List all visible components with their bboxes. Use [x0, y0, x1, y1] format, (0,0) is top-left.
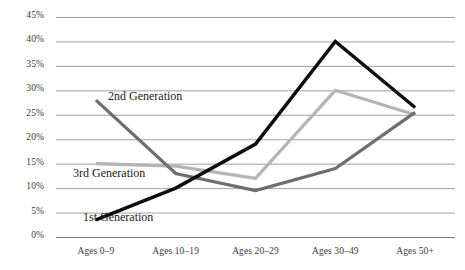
series-label-2: 2nd Generation: [108, 89, 182, 104]
y-axis-tick-label: 20%: [8, 132, 44, 142]
y-axis-tick-label: 0%: [8, 230, 44, 240]
x-axis-tick-label: Ages 0–9: [56, 246, 136, 256]
line-chart: 0%5%10%15%20%25%30%35%40%45% Ages 0–9Age…: [0, 0, 465, 270]
chart-plot-area: [0, 0, 465, 270]
y-axis-tick-label: 40%: [8, 34, 44, 44]
y-axis-tick-label: 10%: [8, 181, 44, 191]
x-axis-tick-label: Ages 20–29: [216, 246, 296, 256]
y-axis-tick-label: 35%: [8, 59, 44, 69]
y-axis-tick-label: 5%: [8, 206, 44, 216]
y-axis-tick-label: 25%: [8, 108, 44, 118]
y-axis-tick-label: 30%: [8, 83, 44, 93]
x-axis-tick-label: Ages 10–19: [136, 246, 216, 256]
y-axis-tick-label: 45%: [8, 10, 44, 20]
series-line-1: [96, 41, 415, 219]
x-axis-tick-label: Ages 50+: [375, 246, 455, 256]
y-axis-tick-label: 15%: [8, 157, 44, 167]
x-axis-tick-label: Ages 30–49: [295, 246, 375, 256]
series-label-3: 3rd Generation: [73, 166, 145, 181]
series-label-1: 1st Generation: [83, 210, 153, 225]
